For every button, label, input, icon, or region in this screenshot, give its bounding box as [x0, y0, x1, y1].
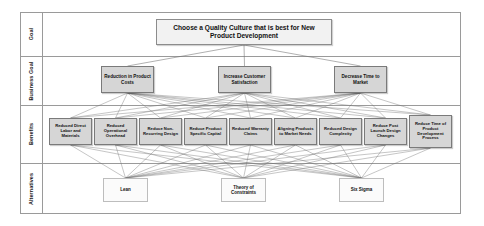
business-goal-node-label: Increase Customer Satisfaction: [221, 74, 268, 85]
row-divider-business-benefits: [20, 105, 461, 106]
benefit-node-reduced-operational-overhead[interactable]: Reduced Operational Overhead: [94, 118, 137, 145]
benefit-node-label: Reduce Non-Recurring Design: [141, 127, 180, 137]
row-label-benefits: Benefits: [20, 105, 42, 163]
goal-node[interactable]: Choose a Quality Culture that is best fo…: [156, 19, 332, 45]
business-goal-node-label: Reduction in Product Costs: [104, 74, 151, 85]
row-label-column-divider: [42, 12, 43, 214]
benefit-node-reduce-post-launch-design-changes[interactable]: Reduce Post Launch Design Changes: [364, 118, 407, 145]
row-label-business-goal: Business Goal: [20, 56, 42, 105]
alternative-node-lean[interactable]: Lean: [103, 178, 148, 202]
diagram-canvas: Goal Business Goal Benefits Alternatives…: [0, 0, 484, 226]
benefit-node-aligning-products-to-market-needs[interactable]: Aligning Products to Market Needs: [274, 118, 317, 145]
benefit-node-label: Reduce Product Specific Capital: [186, 127, 225, 137]
benefit-node-label: Reduced Warranty Claims: [231, 127, 270, 137]
business-goal-node-increase-customer-satisfaction[interactable]: Increase Customer Satisfaction: [218, 66, 271, 93]
row-divider-benefits-alternatives: [20, 163, 461, 164]
benefit-node-reduced-design-complexity[interactable]: Reduced Design Complexity: [319, 118, 362, 145]
row-label-benefits-text: Benefits: [28, 123, 34, 145]
benefit-node-label: Reduce Time of Product Development Proce…: [411, 122, 450, 142]
row-label-business-goal-text: Business Goal: [28, 61, 34, 100]
business-goal-node-reduction-in-product-costs[interactable]: Reduction in Product Costs: [101, 66, 154, 93]
benefit-node-label: Reduced Operational Overhead: [96, 124, 135, 139]
benefit-node-reduced-direct-labor-and-materials[interactable]: Reduced Direct Labor and Materials: [49, 118, 92, 145]
alternative-node-theory-of-constraints[interactable]: Theory of Constraints: [221, 178, 266, 202]
business-goal-node-label: Decrease Time to Market: [337, 74, 384, 85]
benefit-node-label: Reduced Direct Labor and Materials: [51, 124, 90, 139]
benefit-node-reduce-product-specific-capital[interactable]: Reduce Product Specific Capital: [184, 118, 227, 145]
row-label-goal-text: Goal: [28, 28, 34, 40]
benefit-node-label: Reduced Design Complexity: [321, 127, 360, 137]
alternative-node-label: Theory of Constraints: [224, 185, 263, 196]
row-divider-goal-business: [20, 56, 461, 57]
row-label-alternatives-text: Alternatives: [28, 172, 34, 204]
benefit-node-reduced-warranty-claims[interactable]: Reduced Warranty Claims: [229, 118, 272, 145]
alternative-node-label: Lean: [120, 187, 131, 192]
benefit-node-reduce-time-of-product-development-process[interactable]: Reduce Time of Product Development Proce…: [409, 115, 452, 148]
row-label-alternatives: Alternatives: [20, 163, 42, 214]
benefit-node-label: Reduce Post Launch Design Changes: [366, 124, 405, 139]
benefit-node-label: Aligning Products to Market Needs: [276, 127, 315, 137]
benefit-node-reduce-non-recurring-design[interactable]: Reduce Non-Recurring Design: [139, 118, 182, 145]
row-label-goal: Goal: [20, 12, 42, 56]
business-goal-node-decrease-time-to-market[interactable]: Decrease Time to Market: [334, 66, 387, 93]
alternative-node-label: Six Sigma: [351, 187, 373, 192]
alternative-node-six-sigma[interactable]: Six Sigma: [339, 178, 384, 202]
goal-node-label: Choose a Quality Culture that is best fo…: [161, 24, 327, 40]
